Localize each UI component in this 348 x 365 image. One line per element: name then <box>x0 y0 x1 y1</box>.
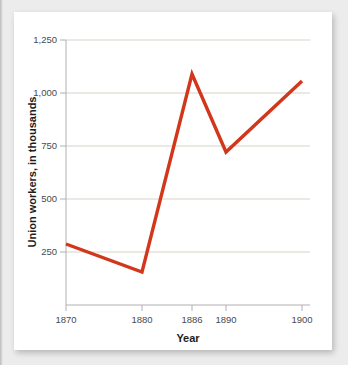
x-axis-title: Year <box>176 332 200 344</box>
y-axis-title: Union workers, in thousands <box>26 97 38 248</box>
screenshot-root: 1,250 1,000 750 500 250 1870 1880 1886 1… <box>0 0 348 365</box>
x-tick-marks <box>66 305 302 311</box>
gridlines <box>66 40 310 252</box>
scan-edge-strip <box>0 0 3 365</box>
x-tick-label-1900: 1900 <box>291 314 312 325</box>
chart-card: 1,250 1,000 750 500 250 1870 1880 1886 1… <box>14 12 332 350</box>
x-tick-label-1890: 1890 <box>215 314 236 325</box>
x-tick-label-1870: 1870 <box>55 314 76 325</box>
axis-lines <box>66 40 310 305</box>
x-tick-label-1880: 1880 <box>131 314 152 325</box>
y-tick-label-500: 500 <box>41 193 57 204</box>
x-tick-label-1886: 1886 <box>181 314 202 325</box>
chart-plot-area: 1,250 1,000 750 500 250 1870 1880 1886 1… <box>14 12 332 350</box>
y-tick-label-250: 250 <box>41 246 57 257</box>
data-line-union-workers <box>66 74 302 272</box>
line-chart: 1,250 1,000 750 500 250 1870 1880 1886 1… <box>14 12 332 350</box>
y-tick-marks <box>60 40 66 252</box>
y-tick-label-1000: 1,000 <box>33 87 57 98</box>
y-tick-label-1250: 1,250 <box>33 34 57 45</box>
y-tick-label-750: 750 <box>41 140 57 151</box>
